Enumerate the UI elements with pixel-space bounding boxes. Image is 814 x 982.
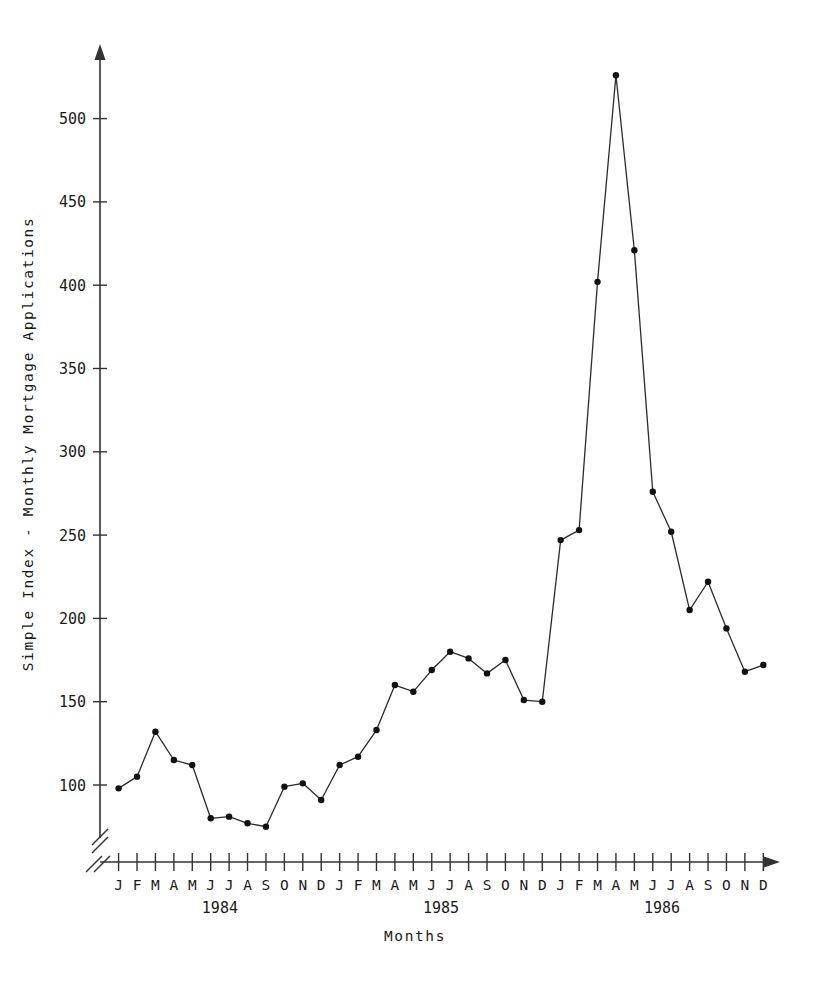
x-axis-month-label: D xyxy=(759,877,768,893)
data-point-marker: N 1984: 101 xyxy=(300,780,306,786)
data-point-marker: M 1986: 402 xyxy=(594,279,600,285)
data-point-marker: A 1984: 77 xyxy=(244,820,250,826)
x-axis-month-label: J xyxy=(446,877,455,893)
data-point-marker: S 1985: 167 xyxy=(484,670,490,676)
y-axis-tick-label: 200 xyxy=(59,610,86,628)
x-axis-year-label: 1984 xyxy=(202,899,238,917)
data-point-marker: D 1984: 91 xyxy=(318,797,324,803)
x-axis-month-label: A xyxy=(391,877,400,893)
data-point-marker: O 1985: 175 xyxy=(502,657,508,663)
data-point-marker: A 1986: 526 xyxy=(613,72,619,78)
data-point-marker: A 1986: 205 xyxy=(686,607,692,613)
x-axis-month-label: J xyxy=(556,877,565,893)
x-axis-month-label: A xyxy=(685,877,694,893)
data-point-marker: S 1986: 222 xyxy=(705,579,711,585)
x-axis-month-label: N xyxy=(298,877,307,893)
line-chart-canvas: 100150200250300350400450500 JFMAMJJASOND… xyxy=(0,0,814,982)
x-axis-month-label: S xyxy=(262,877,271,893)
y-axis-tick-label: 300 xyxy=(59,443,86,461)
x-axis-month-label: J xyxy=(114,877,123,893)
y-axis-tick-label: 350 xyxy=(59,360,86,378)
x-axis-month-label: J xyxy=(667,877,676,893)
x-axis-month-label: J xyxy=(427,877,436,893)
data-point-marker: O 1984: 99 xyxy=(281,783,287,789)
x-axis-month-label: N xyxy=(741,877,750,893)
x-axis-month-label: M xyxy=(409,877,418,893)
y-axis-tick-label: 150 xyxy=(59,693,86,711)
x-axis-month-label: A xyxy=(612,877,621,893)
data-point-marker: J 1986: 247 xyxy=(557,537,563,543)
x-axis-year-label: 1986 xyxy=(644,899,680,917)
y-axis-tick-labels: 100150200250300350400450500 xyxy=(59,110,86,794)
x-axis-arrow-icon xyxy=(764,857,780,868)
data-point-marker: M 1984: 132 xyxy=(152,728,158,734)
y-axis: 100150200250300350400450500 xyxy=(59,44,108,853)
y-axis-tick-label: 250 xyxy=(59,527,86,545)
x-axis-month-label: J xyxy=(648,877,657,893)
chart-figure: 100150200250300350400450500 JFMAMJJASOND… xyxy=(0,0,814,982)
x-axis-break-icon xyxy=(86,856,110,872)
data-point-marker: J 1985: 112 xyxy=(336,762,342,768)
y-axis-tick-label: 100 xyxy=(59,777,86,795)
y-axis-tick-label: 400 xyxy=(59,277,86,295)
x-axis-month-label: M xyxy=(593,877,602,893)
y-axis-arrow-icon xyxy=(95,44,106,60)
data-point-marker: A 1985: 176 xyxy=(465,655,471,661)
data-point-marker: J 1984: 81 xyxy=(226,813,232,819)
x-axis-month-label: M xyxy=(151,877,160,893)
y-axis-tick-label: 450 xyxy=(59,193,86,211)
x-axis-month-label: N xyxy=(519,877,528,893)
x-axis-title: Months xyxy=(384,928,446,944)
data-point-marker: J 1986: 252 xyxy=(668,529,674,535)
data-point-marker: J 1985: 180 xyxy=(447,649,453,655)
data-point-marker: A 1985: 160 xyxy=(392,682,398,688)
data-point-marker: J 1984: 98 xyxy=(115,785,121,791)
x-axis-month-label: D xyxy=(538,877,547,893)
data-point-marker: S 1984: 75 xyxy=(263,823,269,829)
series-line-simple-index xyxy=(119,75,764,826)
data-series-group: J 1984: 98F 1984: 105M 1984: 132A 1984: … xyxy=(115,72,766,830)
data-point-marker: M 1985: 133 xyxy=(373,727,379,733)
x-axis-month-label: A xyxy=(169,877,178,893)
x-axis-month-label: F xyxy=(133,877,142,893)
data-point-marker: D 1985: 150 xyxy=(539,699,545,705)
data-point-marker: N 1985: 151 xyxy=(521,697,527,703)
x-axis-month-label: J xyxy=(206,877,215,893)
data-point-marker: D 1986: 172 xyxy=(760,662,766,668)
data-point-marker: J 1985: 169 xyxy=(429,667,435,673)
data-point-marker: J 1986: 276 xyxy=(650,489,656,495)
x-axis-month-labels: JFMAMJJASONDJFMAMJJASONDJFMAMJJASOND xyxy=(114,877,767,893)
data-point-marker: O 1986: 194 xyxy=(723,625,729,631)
data-point-marker: A 1984: 115 xyxy=(171,757,177,763)
x-axis-month-label: F xyxy=(575,877,584,893)
x-axis-month-label: J xyxy=(335,877,344,893)
x-axis-month-label: O xyxy=(280,877,289,893)
x-axis-year-label: 1985 xyxy=(423,899,459,917)
x-axis-month-label: D xyxy=(317,877,326,893)
x-axis-month-label: A xyxy=(243,877,252,893)
x-axis-month-label: F xyxy=(354,877,363,893)
data-point-marker: J 1984: 80 xyxy=(208,815,214,821)
y-axis-tick-label: 500 xyxy=(59,110,86,128)
data-point-marker: F 1984: 105 xyxy=(134,773,140,779)
x-axis-month-label: M xyxy=(372,877,381,893)
x-axis-year-labels: 198419851986 xyxy=(202,899,680,917)
x-axis: JFMAMJJASONDJFMAMJJASONDJFMAMJJASOND 198… xyxy=(86,853,780,917)
y-axis-title: Simple Index - Monthly Mortgage Applicat… xyxy=(20,217,36,672)
series-markers: J 1984: 98F 1984: 105M 1984: 132A 1984: … xyxy=(115,72,766,830)
data-point-marker: M 1986: 421 xyxy=(631,247,637,253)
data-point-marker: F 1985: 117 xyxy=(355,753,361,759)
x-axis-month-label: J xyxy=(225,877,234,893)
data-point-marker: M 1985: 156 xyxy=(410,689,416,695)
data-point-marker: N 1986: 168 xyxy=(742,669,748,675)
x-axis-month-label: M xyxy=(630,877,639,893)
x-axis-month-label: O xyxy=(722,877,731,893)
x-axis-month-label: S xyxy=(704,877,713,893)
x-axis-month-label: A xyxy=(464,877,473,893)
x-axis-month-label: O xyxy=(501,877,510,893)
x-axis-month-label: M xyxy=(188,877,197,893)
data-point-marker: F 1986: 253 xyxy=(576,527,582,533)
x-axis-month-label: S xyxy=(483,877,492,893)
data-point-marker: M 1984: 112 xyxy=(189,762,195,768)
